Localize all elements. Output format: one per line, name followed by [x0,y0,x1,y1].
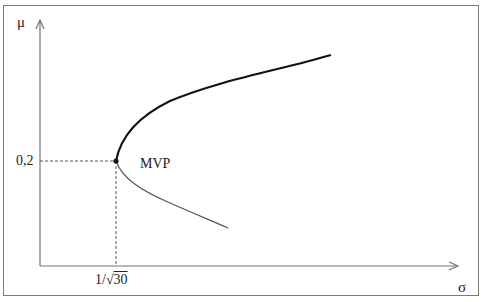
y-axis [36,20,44,266]
x-axis [40,262,458,270]
diagram-canvas [0,0,483,302]
x-axis-label: σ [458,280,466,295]
x-tick-prefix: 1/√ [95,272,114,287]
x-tick-label: 1/√30 [95,273,128,287]
mvp-label: MVP [140,157,170,171]
frontier-lower [116,161,228,228]
x-tick-radicand: 30 [114,272,128,287]
mvp-point [113,158,118,163]
y-tick-label: 0,2 [16,154,34,168]
y-axis-label: μ [17,15,25,30]
efficient-frontier-upper [116,55,331,161]
